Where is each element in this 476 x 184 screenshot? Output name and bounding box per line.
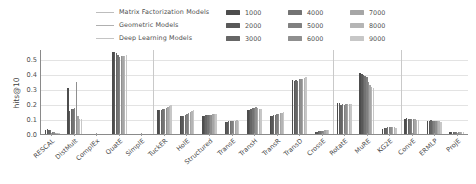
legend-family-item[interactable]: Geometric Models bbox=[96, 19, 224, 31]
bar-group bbox=[288, 50, 310, 134]
bar-group bbox=[153, 50, 175, 134]
bar[interactable] bbox=[238, 121, 239, 134]
legend-dimension-label: 5000 bbox=[307, 22, 323, 30]
legend-dimension-label: 2000 bbox=[245, 22, 261, 30]
bar-group bbox=[176, 50, 198, 134]
x-tick-mark bbox=[186, 133, 187, 136]
x-tick-mark bbox=[299, 133, 300, 136]
x-axis-tick: TransD bbox=[288, 136, 311, 184]
bar[interactable] bbox=[215, 114, 216, 134]
x-tick-mark bbox=[164, 133, 165, 136]
bar-group bbox=[266, 50, 288, 134]
bar-group bbox=[221, 50, 243, 134]
legend-dimension-label: 3000 bbox=[245, 35, 261, 43]
x-axis-tick: TuckER bbox=[153, 136, 176, 184]
x-axis-tick: QuatE bbox=[108, 136, 131, 184]
legend-color-swatch bbox=[288, 36, 302, 41]
bar[interactable] bbox=[373, 88, 374, 134]
x-tick-mark bbox=[389, 133, 390, 136]
bar[interactable] bbox=[58, 133, 59, 134]
bar-group bbox=[423, 50, 445, 134]
legend-dimension-item[interactable]: 1000 bbox=[226, 6, 288, 19]
x-axis-tick: ConvE bbox=[401, 136, 424, 184]
bar[interactable] bbox=[81, 119, 82, 134]
x-tick-mark bbox=[96, 133, 97, 136]
bar[interactable] bbox=[126, 55, 127, 134]
bar[interactable] bbox=[395, 128, 396, 134]
x-tick-mark bbox=[277, 133, 278, 136]
legend-dimension-label: 8000 bbox=[369, 22, 385, 30]
bar[interactable] bbox=[305, 77, 306, 134]
y-axis-tick-label: 0.0 bbox=[9, 131, 37, 139]
bar-group bbox=[401, 50, 423, 134]
x-axis-tick: KG2E bbox=[378, 136, 401, 184]
legend-family-item[interactable]: Deep Learning Models bbox=[96, 32, 224, 44]
legend-line-swatch bbox=[96, 38, 114, 39]
legend-embedding-dimensions: 100020003000400050006000700080009000 bbox=[226, 6, 476, 45]
x-tick-mark bbox=[457, 133, 458, 136]
legend-dimension-item[interactable]: 7000 bbox=[350, 6, 412, 19]
x-tick-mark bbox=[119, 133, 120, 136]
x-axis-tick: MuRE bbox=[355, 136, 378, 184]
legend-family-label: Deep Learning Models bbox=[119, 34, 192, 42]
x-axis-tick-label: ProjE bbox=[445, 137, 463, 154]
bar[interactable] bbox=[170, 105, 171, 134]
bar-group bbox=[311, 50, 333, 134]
x-tick-mark bbox=[254, 133, 255, 136]
chart-legend: Matrix Factorization ModelsGeometric Mod… bbox=[96, 6, 472, 46]
bar-group bbox=[86, 50, 108, 134]
legend-dimension-item[interactable]: 9000 bbox=[350, 32, 412, 45]
legend-family-item[interactable]: Matrix Factorization Models bbox=[96, 6, 224, 18]
bar[interactable] bbox=[193, 110, 194, 134]
bar-group bbox=[108, 50, 130, 134]
plot-area: 0.00.10.20.30.40.5 bbox=[40, 50, 468, 135]
x-tick-mark bbox=[322, 133, 323, 136]
x-axis-tick: TransR bbox=[265, 136, 288, 184]
chart-figure: Matrix Factorization ModelsGeometric Mod… bbox=[0, 0, 476, 184]
legend-line-swatch bbox=[96, 25, 114, 26]
bar[interactable] bbox=[260, 109, 261, 134]
legend-dimension-item[interactable]: 3000 bbox=[226, 32, 288, 45]
bar[interactable] bbox=[418, 120, 419, 134]
x-axis-tick: ERMLP bbox=[423, 136, 446, 184]
legend-dimension-item[interactable]: 2000 bbox=[226, 19, 288, 32]
x-axis-tick: RotatE bbox=[333, 136, 356, 184]
x-tick-mark bbox=[434, 133, 435, 136]
legend-color-swatch bbox=[288, 10, 302, 15]
x-axis-tick-label: QuatE bbox=[104, 137, 124, 156]
x-axis-tick: Structured bbox=[198, 136, 221, 184]
x-axis-tick-label: HolE bbox=[175, 137, 191, 153]
legend-color-swatch bbox=[350, 36, 364, 41]
legend-color-swatch bbox=[226, 36, 240, 41]
bar[interactable] bbox=[463, 132, 464, 134]
legend-dimension-item[interactable]: 6000 bbox=[288, 32, 350, 45]
x-axis-tick: ComplEx bbox=[85, 136, 108, 184]
bar[interactable] bbox=[283, 112, 284, 134]
legend-dimension-item[interactable]: 5000 bbox=[288, 19, 350, 32]
bar[interactable] bbox=[350, 104, 351, 134]
x-axis-tick-label: KG2E bbox=[376, 137, 395, 155]
legend-family-label: Matrix Factorization Models bbox=[119, 8, 209, 16]
x-tick-mark bbox=[367, 133, 368, 136]
bar[interactable] bbox=[328, 130, 329, 134]
bar-group bbox=[378, 50, 400, 134]
y-axis-tick-label: 0.5 bbox=[9, 56, 37, 64]
x-axis-tick-label: RESCAL bbox=[32, 137, 56, 160]
x-axis-tick: CrossE bbox=[310, 136, 333, 184]
legend-model-families: Matrix Factorization ModelsGeometric Mod… bbox=[96, 6, 224, 45]
legend-dimension-label: 4000 bbox=[307, 9, 323, 17]
legend-dimension-label: 1000 bbox=[245, 9, 261, 17]
bar[interactable] bbox=[440, 122, 441, 134]
x-tick-mark bbox=[412, 133, 413, 136]
x-axis-tick-label: MuRE bbox=[353, 137, 372, 155]
legend-line-swatch bbox=[96, 12, 114, 13]
bar-group bbox=[131, 50, 153, 134]
legend-dimension-label: 6000 bbox=[307, 35, 323, 43]
x-axis-tick: TransE bbox=[220, 136, 243, 184]
bar-group bbox=[243, 50, 265, 134]
legend-dimension-item[interactable]: 4000 bbox=[288, 6, 350, 19]
legend-dimension-item[interactable]: 8000 bbox=[350, 19, 412, 32]
legend-dimension-label: 7000 bbox=[369, 9, 385, 17]
bar-groups bbox=[41, 50, 468, 134]
bar-group bbox=[445, 50, 467, 134]
